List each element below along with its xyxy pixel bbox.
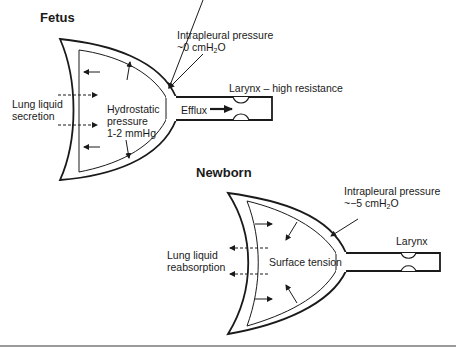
newborn-intrapleural-label-line1: Intrapleural pressure <box>344 185 440 197</box>
newborn-intrapleural-label-line2: ~−5 cmH2O <box>344 197 399 213</box>
newborn-title: Newborn <box>196 165 252 180</box>
newborn-larynx-label: Larynx <box>396 235 428 247</box>
fetus-intrapleural-label-line1: Intrapleural pressure <box>177 29 273 41</box>
fetus-intrapleural-pointer <box>169 54 203 88</box>
newborn-surface-tension-label: Surface tension <box>269 256 342 268</box>
fetus-larynx-label: Larynx – high resistance <box>229 82 343 94</box>
newborn-reabsorption-label: Lung liquidreabsorption <box>167 249 225 273</box>
fetus-efflux-label: Efflux <box>181 104 207 116</box>
fetus-intrapleural-label-line2: ~0 cmH2O <box>177 41 226 57</box>
fetus-secretion-label: Lung liquidsecretion <box>12 98 63 122</box>
fetus-title: Fetus <box>40 10 75 25</box>
fetus-hydrostatic-label: Hydrostaticpressure1-2 mmHg <box>107 103 160 139</box>
bottom-divider <box>0 345 456 347</box>
